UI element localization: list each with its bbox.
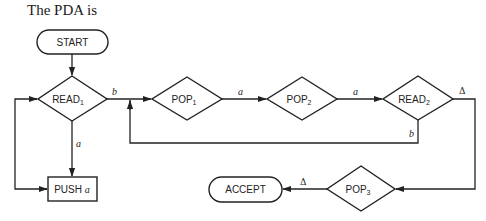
pop1-node: POP1	[152, 77, 222, 120]
pop2-node: POP2	[267, 77, 337, 120]
edge-label-a: a	[353, 86, 358, 97]
edge-pop3-accept: Δ	[283, 177, 327, 189]
start-node: START	[37, 30, 108, 54]
edge-label-a: a	[238, 86, 243, 97]
edge-push-read1-loop	[15, 99, 47, 189]
pop3-node: POP3	[327, 166, 395, 211]
edge-label-b: b	[112, 86, 117, 97]
edge-label-delta: Δ	[300, 177, 307, 187]
accept-node: ACCEPT	[209, 177, 282, 202]
edge-label-delta: Δ	[459, 86, 466, 96]
edge-label-a: a	[76, 138, 81, 149]
edge-pop1-pop2: a	[222, 86, 266, 99]
svg-text:START: START	[57, 37, 89, 48]
pda-flowchart: b a a a b Δ Δ START READ1	[0, 0, 486, 221]
push-a-node: PUSH a	[48, 177, 97, 201]
svg-text:ACCEPT: ACCEPT	[225, 184, 266, 195]
edge-pop2-read2: a	[337, 86, 382, 99]
svg-text:PUSH a: PUSH a	[54, 184, 90, 195]
read1-node: READ1	[38, 76, 107, 121]
svg-text:READ1: READ1	[52, 94, 84, 106]
read2-node: READ2	[383, 76, 453, 120]
edge-label-b: b	[409, 128, 414, 139]
edge-read1-push: a	[72, 121, 81, 176]
svg-text:READ2: READ2	[398, 94, 430, 106]
edge-read1-pop1: b	[107, 86, 151, 99]
